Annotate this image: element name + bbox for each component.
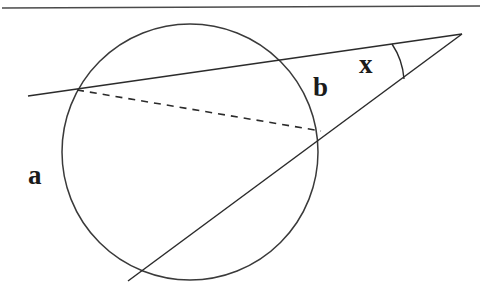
arc-label-a: a	[28, 162, 42, 189]
dashed-chord-line	[77, 90, 321, 131]
arc-label-b: b	[313, 74, 328, 101]
circle-shape	[62, 24, 318, 280]
diagram-canvas: a b x	[0, 0, 482, 295]
lower-secant-line	[128, 34, 462, 281]
angle-label-x: x	[359, 51, 373, 78]
angle-arc-x	[392, 44, 404, 79]
geometry-svg	[0, 0, 482, 295]
upper-secant-line	[28, 34, 462, 96]
top-rule-line	[2, 6, 480, 8]
